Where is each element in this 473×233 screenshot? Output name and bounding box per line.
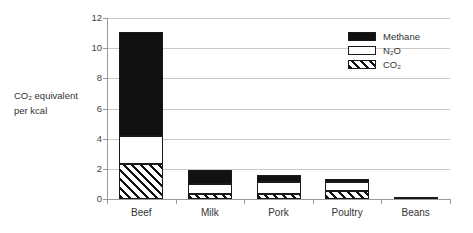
legend-label-co2: CO₂ bbox=[383, 59, 401, 70]
x-tick-mark bbox=[107, 200, 108, 204]
legend-swatch-methane-icon bbox=[348, 32, 376, 41]
x-tick-mark bbox=[450, 200, 451, 204]
bar-segment-poultry-methane[interactable] bbox=[325, 179, 369, 182]
bar-segment-pork-methane[interactable] bbox=[257, 175, 301, 182]
bar-segment-milk-co2[interactable] bbox=[188, 194, 232, 199]
x-axis-label-milk: Milk bbox=[176, 207, 245, 218]
bar-segment-poultry-n2o[interactable] bbox=[325, 182, 369, 190]
bar-segment-beef-methane[interactable] bbox=[119, 32, 163, 136]
legend-swatch-n2o-icon bbox=[348, 46, 376, 55]
legend-label-n2o: N₂O bbox=[383, 45, 401, 56]
legend-item-co2[interactable]: CO₂ bbox=[348, 58, 420, 71]
bar-segment-milk-n2o[interactable] bbox=[188, 184, 232, 195]
legend-item-methane[interactable]: Methane bbox=[348, 30, 420, 43]
bar-milk[interactable] bbox=[188, 18, 232, 199]
legend-label-methane: Methane bbox=[383, 31, 420, 42]
y-tick-label: 2 bbox=[78, 164, 102, 174]
y-axis-title-line-1: CO₂ equivalent bbox=[14, 88, 100, 103]
bar-pork[interactable] bbox=[257, 18, 301, 199]
y-tick-label: 10 bbox=[78, 43, 102, 53]
y-tick-label: 0 bbox=[78, 194, 102, 204]
bar-segment-pork-co2[interactable] bbox=[257, 194, 301, 199]
bar-segment-milk-methane[interactable] bbox=[188, 170, 232, 184]
y-tick-label: 4 bbox=[78, 134, 102, 144]
bar-segment-pork-n2o[interactable] bbox=[257, 182, 301, 195]
x-tick-mark bbox=[244, 200, 245, 204]
legend-swatch-co2-icon bbox=[348, 60, 376, 69]
x-axis-line bbox=[107, 199, 451, 200]
y-tick-label: 12 bbox=[78, 13, 102, 23]
x-axis-label-pork: Pork bbox=[244, 207, 313, 218]
x-tick-mark bbox=[381, 200, 382, 204]
x-axis-label-beans: Beans bbox=[381, 207, 450, 218]
x-axis-label-poultry: Poultry bbox=[313, 207, 382, 218]
bar-beef[interactable] bbox=[119, 18, 163, 199]
x-tick-mark bbox=[313, 200, 314, 204]
x-tick-mark bbox=[176, 200, 177, 204]
bar-segment-beans-co2[interactable] bbox=[394, 197, 438, 199]
legend-item-n2o[interactable]: N₂O bbox=[348, 44, 420, 57]
bar-segment-poultry-co2[interactable] bbox=[325, 191, 369, 199]
y-tick-label: 8 bbox=[78, 73, 102, 83]
chart-legend: Methane N₂O CO₂ bbox=[348, 30, 420, 72]
bar-segment-beef-co2[interactable] bbox=[119, 164, 163, 199]
stacked-bar-chart: CO₂ equivalent per kcal 024681012 BeefMi… bbox=[0, 0, 473, 233]
x-axis-label-beef: Beef bbox=[107, 207, 176, 218]
bar-segment-beef-n2o[interactable] bbox=[119, 136, 163, 165]
y-tick-label: 6 bbox=[78, 104, 102, 114]
